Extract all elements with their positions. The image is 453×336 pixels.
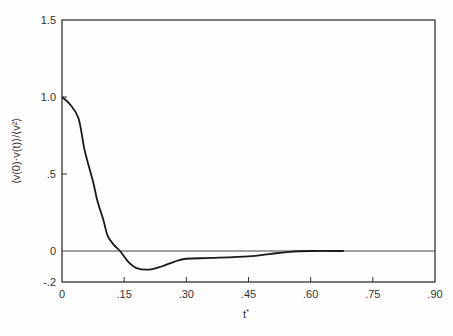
- x-axis-label: t*: [243, 307, 249, 320]
- x-tick-label: .30: [179, 288, 194, 300]
- plot-frame: [62, 20, 435, 282]
- x-axis-ticks: 0.15.30.45.60.75.90: [59, 277, 443, 300]
- y-tick-label: 1.0: [41, 91, 56, 103]
- x-tick-label: .45: [241, 288, 256, 300]
- x-tick-label: .60: [303, 288, 318, 300]
- y-tick-label: 1.5: [41, 14, 56, 26]
- y-axis-label: ⟨v(0)·v(t)⟩/⟨v²⟩: [10, 118, 22, 185]
- y-tick-label: .5: [47, 168, 56, 180]
- y-tick-label: -.2: [43, 276, 56, 288]
- chart: 0.15.30.45.60.75.90 -.20.51.01.5 t* ⟨v(0…: [0, 0, 453, 336]
- y-tick-label: 0: [50, 245, 56, 257]
- y-axis-ticks: -.20.51.01.5: [41, 14, 67, 288]
- x-tick-label: 0: [59, 288, 65, 300]
- x-tick-label: .15: [117, 288, 132, 300]
- data-series-line: [62, 97, 344, 270]
- x-tick-label: .75: [365, 288, 380, 300]
- x-tick-label: .90: [427, 288, 442, 300]
